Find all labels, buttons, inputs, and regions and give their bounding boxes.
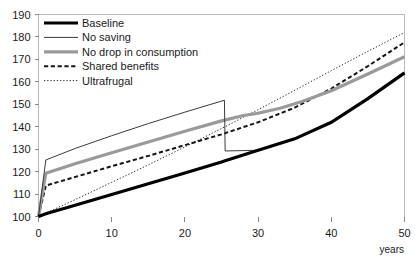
x-tick-label: 30 [252, 227, 264, 239]
x-tick-label: 40 [325, 227, 337, 239]
y-axis-ticks [35, 15, 39, 217]
y-tick-label: 190 [12, 9, 30, 21]
legend-label-shared-benefits: Shared benefits [82, 60, 160, 72]
x-tick-label: 10 [106, 227, 118, 239]
series-line-baseline [39, 73, 405, 217]
x-axis-title: years [380, 244, 404, 255]
y-tick-label: 170 [12, 53, 30, 65]
legend-label-no-drop-in-consumption: No drop in consumption [82, 46, 198, 58]
legend-label-no-saving: No saving [82, 31, 131, 43]
y-tick-label: 150 [12, 98, 30, 110]
y-tick-label: 100 [12, 211, 30, 223]
x-tick-label: 50 [398, 227, 410, 239]
plot-frame-border [39, 15, 405, 217]
chart-legend: BaselineNo savingNo drop in consumptionS… [44, 17, 198, 87]
y-tick-label: 140 [12, 121, 30, 133]
y-tick-label: 120 [12, 166, 30, 178]
legend-label-baseline: Baseline [82, 17, 124, 29]
y-tick-label: 110 [13, 188, 31, 200]
plot-frame [39, 15, 405, 217]
chart-container: 100110120130140150160170180190 010203040… [0, 0, 415, 260]
y-tick-label: 160 [12, 76, 30, 88]
y-axis-tick-labels: 100110120130140150160170180190 [12, 9, 30, 223]
x-tick-label: 0 [35, 227, 41, 239]
line-chart: 100110120130140150160170180190 010203040… [0, 0, 415, 260]
x-tick-label: 20 [179, 227, 191, 239]
series-line-no-saving [39, 73, 405, 217]
y-tick-label: 180 [12, 31, 30, 43]
y-tick-label: 130 [12, 143, 30, 155]
x-axis-ticks [39, 217, 405, 222]
legend-label-ultrafrugal: Ultrafrugal [82, 75, 133, 87]
x-axis-tick-labels: 01020304050 [35, 227, 410, 239]
